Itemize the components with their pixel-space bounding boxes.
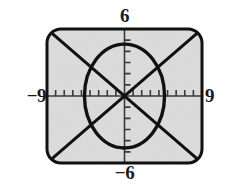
- axis-label-bottom: −6: [0, 163, 249, 182]
- calculator-screen-figure: 6 −6 −9 9: [0, 0, 249, 189]
- axis-label-top: 6: [0, 6, 249, 25]
- axis-label-left: −9: [8, 86, 46, 105]
- axis-label-right: 9: [205, 86, 245, 105]
